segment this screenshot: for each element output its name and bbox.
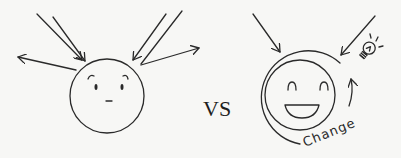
left-panel: [18, 11, 199, 133]
face-outline: [70, 59, 144, 133]
lightbulb-icon: [357, 40, 378, 62]
right-eyebrow: [123, 75, 128, 79]
arrow-in-5: [253, 14, 280, 52]
right-eye: [320, 82, 328, 90]
neutral-face: [70, 59, 144, 133]
arrow-in-1: [37, 14, 82, 60]
cycle-arrow-icon: [349, 79, 352, 106]
left-eyebrow: [88, 75, 94, 79]
change-label: Change: [301, 115, 358, 150]
arrow-out-right: [141, 48, 199, 65]
diagram-canvas: VS Change: [0, 0, 401, 158]
smile-mouth: [285, 105, 319, 118]
left-eye: [95, 84, 98, 90]
left-eye: [288, 82, 296, 90]
incoming-arrows-left: [37, 11, 182, 64]
face-outline: [265, 60, 335, 130]
happy-face: [265, 60, 335, 130]
arrow-in-4: [141, 11, 182, 64]
right-panel: Change: [253, 14, 383, 150]
vs-label: VS: [203, 96, 231, 121]
lightbulb-rays: [370, 34, 383, 47]
arrow-in-2: [53, 17, 85, 61]
incoming-arrows-right: [253, 14, 375, 55]
arrow-out-left: [18, 57, 76, 70]
right-eye: [121, 84, 124, 90]
